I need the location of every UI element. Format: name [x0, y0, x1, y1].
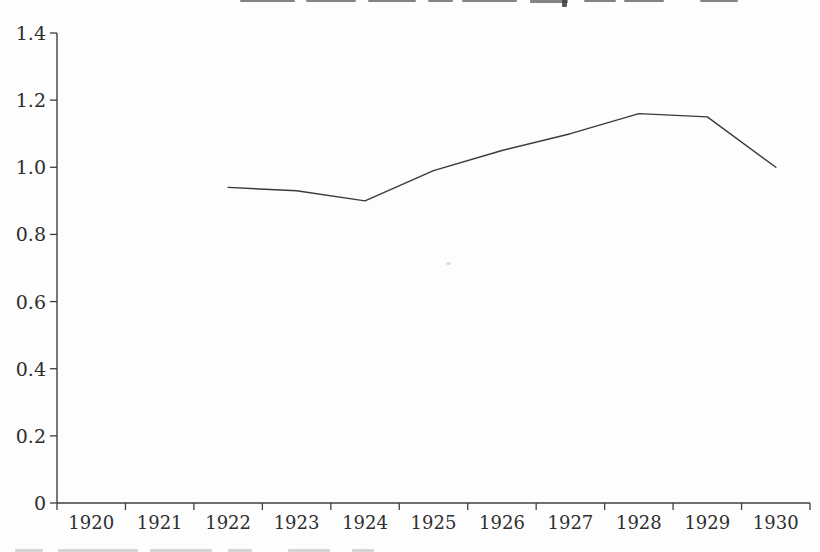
data-line-series [228, 114, 776, 201]
y-tick-label: 0.4 [16, 358, 46, 380]
x-tick-label: 1920 [68, 512, 114, 533]
x-tick-label: 1927 [548, 512, 594, 533]
y-tick-label: 1.4 [16, 22, 46, 44]
y-tick-label: 0 [34, 492, 46, 514]
x-tick-label: 1921 [137, 512, 183, 533]
y-tick-label: 0.8 [16, 223, 46, 245]
y-tick-label: 0.6 [16, 291, 46, 313]
y-tick-label: 0.2 [16, 425, 46, 447]
clipped-caption-fragment [0, 545, 820, 552]
line-chart: 00.20.40.60.81.01.21.4192019211922192319… [0, 0, 820, 552]
y-tick-label: 1.0 [16, 156, 46, 178]
x-tick-label: 1928 [616, 512, 662, 533]
x-tick-label: 1922 [205, 512, 251, 533]
y-tick-label: 1.2 [16, 89, 46, 111]
x-tick-label: 1929 [684, 512, 730, 533]
x-tick-label: 1930 [753, 512, 799, 533]
x-tick-label: 1925 [411, 512, 457, 533]
x-tick-label: 1923 [274, 512, 320, 533]
x-tick-label: 1924 [342, 512, 388, 533]
scanned-chart-page: 00.20.40.60.81.01.21.4192019211922192319… [0, 0, 820, 552]
scan-speck [446, 262, 451, 265]
x-tick-label: 1926 [479, 512, 525, 533]
